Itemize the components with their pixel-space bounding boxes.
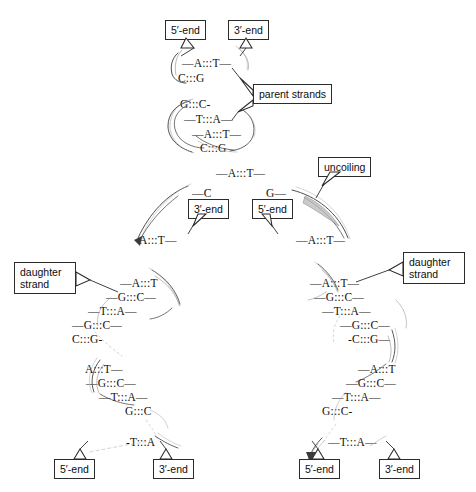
daughter-left-pair-2: —G:::C— [106,292,156,304]
label-text: 3′-end [194,203,223,215]
label-five-prime-daughter-left[interactable]: 5′-end [54,459,95,479]
daughter-right-pair-6: —A:::T [358,364,396,376]
label-text: 3′-end [234,24,263,36]
label-daughter-strand-right[interactable]: daughter strand [403,252,465,284]
parent-base-pair-1: —A:::T— [182,58,231,70]
uncoiling-left-bottom-pair: A:::T— [139,235,177,247]
parent-base-pair-6: C:::G [200,143,227,155]
label-five-prime-parent[interactable]: 5′-end [165,20,206,40]
daughter-left-pair-3: —T:::A— [88,306,137,318]
label-text: 5′-end [60,463,89,475]
daughter-left-final-pair: -T:::A [126,437,155,449]
label-text-line1: daughter [20,266,61,278]
label-text: 5′-end [171,24,200,36]
label-text-line2: strand [20,278,49,290]
daughter-right-pair-1: —A:::T— [310,278,359,290]
daughter-left-pair-9: G:::C [125,406,152,418]
label-text: 3′-end [385,463,414,475]
label-text-line1: daughter [409,256,450,268]
uncoiling-left-base: —C [192,188,212,200]
label-text: uncoiling [324,161,365,173]
label-parent-strands[interactable]: parent strands [253,84,332,104]
daughter-right-pair-7: —G:::C— [346,378,396,390]
daughter-right-pair-8: —T:::A— [332,392,381,404]
label-text: 5′-end [305,463,334,475]
parent-base-pair-2: C:::G [178,73,205,85]
label-three-prime-daughter-right[interactable]: 3′-end [379,459,420,479]
label-text-line2: strand [409,268,438,280]
label-three-prime-parent[interactable]: 3′-end [228,20,269,40]
daughter-left-pair-1: —A:::T [120,278,158,290]
label-text: 3′-end [159,463,188,475]
daughter-right-pair-4: —G:::C— [340,320,390,332]
callout-leader-lines [0,0,476,492]
helix-backbone-arcs [0,0,476,492]
label-uncoiling[interactable]: uncoiling [318,157,371,177]
label-three-prime-daughter-left[interactable]: 3′-end [153,459,194,479]
label-daughter-strand-left[interactable]: daughter strand [14,262,76,294]
uncoiling-right-base: G— [266,188,286,200]
daughter-left-pair-8: —T:::A— [99,392,148,404]
daughter-right-pair-9: G:::C- [322,406,353,418]
label-five-prime-fork-right[interactable]: 5′-end [252,199,293,219]
parent-base-pair-5: —A:::T— [192,129,241,141]
uncoiling-shading [303,196,339,226]
daughter-left-pair-7: —G:::C— [86,378,136,390]
daughter-left-pair-4: —G:::C— [72,320,122,332]
label-five-prime-daughter-right[interactable]: 5′-end [299,459,340,479]
daughter-right-final-pair: —T:::A— [328,437,377,449]
daughter-right-pair-2: —G:::C— [314,292,364,304]
label-text: parent strands [259,88,326,100]
uncoiling-top-pair: —A:::T— [216,168,265,180]
daughter-right-pair-3: —T:::A— [322,306,371,318]
label-text: 5′-end [258,203,287,215]
daughter-left-pair-6: A:::T— [85,364,123,376]
daughter-right-pair-5: -C:::G— [348,334,390,346]
uncoiling-right-bottom-pair: —A:::T— [296,235,345,247]
parent-base-pair-3: G:::C- [180,99,211,111]
parent-base-pair-4: —T:::A— [184,114,233,126]
dna-replication-diagram: 5′-end 3′-end —A:::T— C:::G G:::C- —T:::… [0,0,476,492]
label-three-prime-fork-left[interactable]: 3′-end [188,199,229,219]
daughter-left-pair-5: C:::G- [72,334,103,346]
